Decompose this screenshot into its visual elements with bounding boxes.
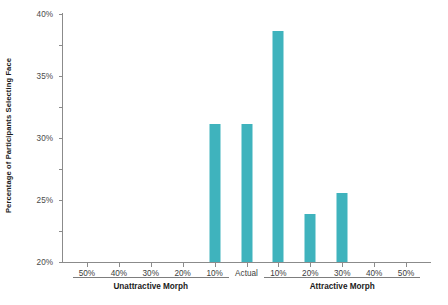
y-tick-label: 40% (37, 10, 53, 19)
y-tick-mark: 5% (59, 231, 63, 232)
y-tick-mark: 35% (59, 45, 63, 46)
y-tick-mark: 30% (59, 76, 63, 77)
plot-area: 0%5%10%15%20%25%30%35%40% 50%40%30%20%10… (63, 14, 430, 262)
y-tick-mark: 0% (59, 262, 63, 263)
x-tick-mark (87, 262, 88, 267)
bar (273, 31, 284, 262)
x-tick-mark (310, 262, 311, 267)
group-label-unattractive: Unattractive Morph (113, 282, 188, 291)
bar (209, 124, 220, 262)
y-tick-mark: 10% (59, 200, 63, 201)
y-tick-label: 25% (37, 196, 53, 205)
y-tick-mark: 40% (59, 14, 63, 15)
chart-container: Percentage of Participants Selecting Fac… (0, 0, 448, 305)
x-tick-mark (406, 262, 407, 267)
y-tick-mark: 15% (59, 169, 63, 170)
bar (241, 124, 252, 262)
bar (337, 193, 348, 262)
y-axis-title: Percentage of Participants Selecting Fac… (0, 0, 18, 270)
y-tick-label: 30% (37, 134, 53, 143)
y-tick-mark: 20% (59, 138, 63, 139)
attractive-morph-rule (264, 277, 420, 278)
x-tick-mark (119, 262, 120, 267)
x-tick-mark (183, 262, 184, 267)
group-label-attractive: Attractive Morph (310, 282, 375, 291)
x-tick-mark (342, 262, 343, 267)
y-axis-title-text: Percentage of Participants Selecting Fac… (5, 57, 14, 212)
x-tick-mark (247, 262, 248, 267)
x-tick-mark (278, 262, 279, 267)
unattractive-morph-rule (73, 277, 229, 278)
bar (305, 214, 316, 262)
y-tick-mark: 25% (59, 107, 63, 108)
y-tick-label: 20% (37, 258, 53, 267)
y-tick-label: 35% (37, 72, 53, 81)
x-tick-mark (215, 262, 216, 267)
x-tick-mark (151, 262, 152, 267)
x-tick-mark (374, 262, 375, 267)
x-tick-label: Actual (235, 269, 258, 278)
